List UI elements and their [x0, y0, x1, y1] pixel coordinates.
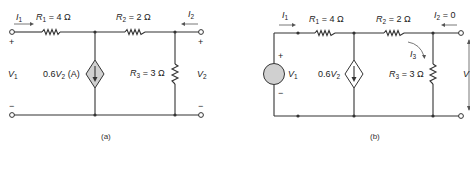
label-i1: I1 [282, 10, 289, 21]
label-i3: I3 [410, 49, 417, 60]
label-r3: R3 = 3 Ω [389, 69, 424, 80]
terminal-b-2p [459, 31, 464, 36]
label-v2: V [463, 69, 470, 79]
terminal-a-2m [199, 113, 204, 118]
label-dependent-source: 0.6V2 (A) [43, 69, 80, 80]
arrow-left-icon [181, 22, 185, 26]
terminal-a-1m [10, 113, 15, 118]
figure-a: I1 R1 = 4 Ω R2 = 2 Ω I2 0.6V2 (A) R3 = 3… [8, 9, 207, 141]
label-r2: R2 = 2 Ω [116, 12, 151, 23]
label-v2: V2 [197, 69, 207, 80]
terminal-a-2p [199, 30, 204, 35]
arrow-left-icon [441, 23, 445, 27]
terminal-b-2m [459, 114, 464, 119]
figure-b: I1 R1 = 4 Ω R2 = 2 Ω I2 = 0 I3 V1 0.6V2 … [264, 10, 470, 141]
label-r1: R1 = 4 Ω [36, 12, 71, 23]
label-r3: R3 = 3 Ω [130, 68, 165, 79]
plus-sign: + [278, 51, 283, 61]
resistor-r1 [315, 31, 335, 36]
minus-sign: − [9, 101, 14, 111]
label-v1: V1 [288, 69, 298, 80]
resistor-r2 [384, 31, 404, 36]
caption-b: (b) [370, 132, 380, 141]
plus-sign: + [198, 37, 203, 47]
minus-sign: − [278, 88, 283, 98]
arrow-right-icon [292, 23, 296, 27]
resistor-r3 [430, 64, 436, 84]
plus-sign: + [9, 37, 14, 47]
terminal-a-1p [10, 30, 15, 35]
resistor-r2 [125, 30, 145, 35]
label-i1: I1 [16, 12, 23, 23]
arrow-right-icon [30, 22, 34, 26]
label-i2: I2 = 0 [434, 10, 455, 21]
label-v1: V1 [8, 69, 18, 80]
circuit-figures: I1 R1 = 4 Ω R2 = 2 Ω I2 0.6V2 (A) R3 = 3… [0, 0, 470, 169]
label-r1: R1 = 4 Ω [309, 14, 344, 25]
label-dependent-source: 0.6V2 [318, 69, 341, 80]
minus-sign: − [198, 101, 203, 111]
caption-a: (a) [101, 132, 111, 141]
resistor-r3 [172, 64, 178, 84]
label-i2: I2 [188, 9, 195, 20]
resistor-r1 [42, 30, 60, 35]
voltage-source-v1 [264, 64, 285, 85]
label-r2: R2 = 2 Ω [376, 14, 411, 25]
